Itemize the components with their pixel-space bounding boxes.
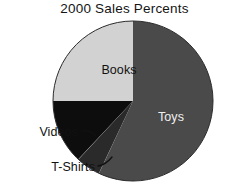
pie-label-books: Books <box>101 63 136 77</box>
pie-label-toys: Toys <box>158 110 184 124</box>
pie-chart-svg: Toys Books Videos T-Shirts <box>0 0 231 189</box>
pie-label-tshirts: T-Shirts <box>51 160 95 174</box>
pie-label-videos: Videos <box>39 125 78 139</box>
pie-chart-figure: 2000 Sales Percents Toys Books Videos T-… <box>0 0 231 189</box>
pie-slice-books[interactable] <box>53 21 133 101</box>
